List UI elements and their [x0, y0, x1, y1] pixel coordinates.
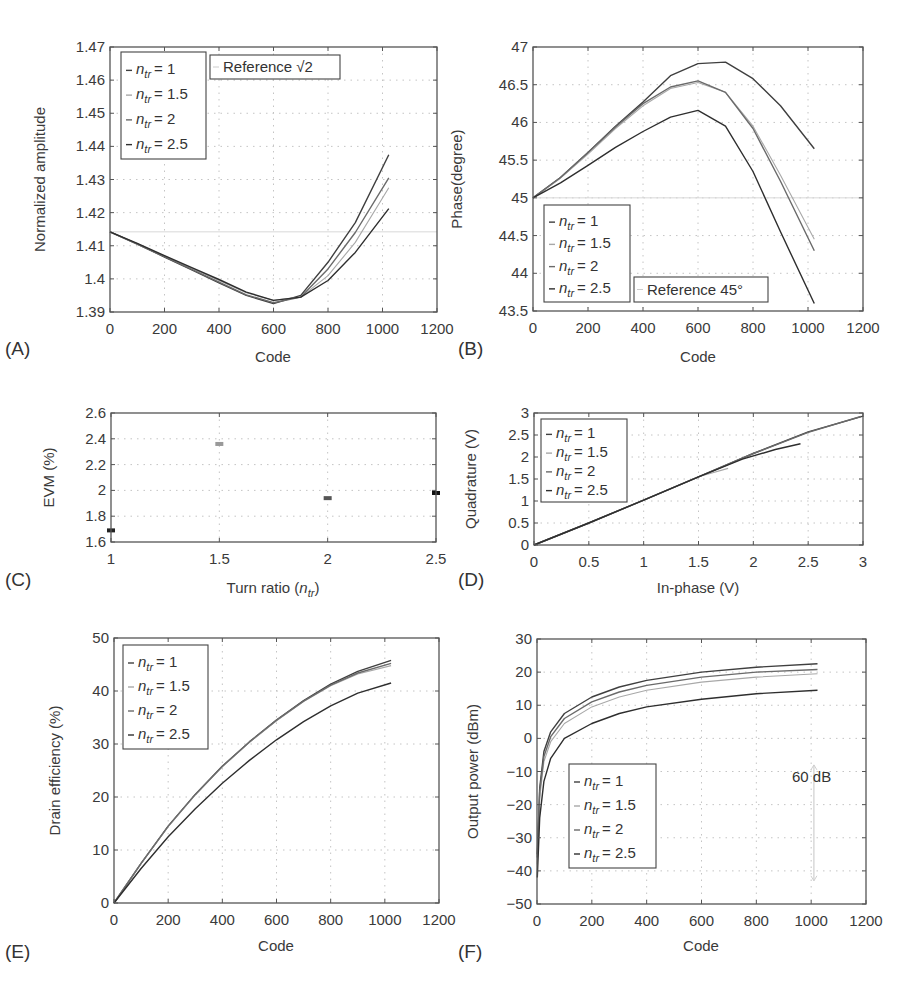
series-line: [110, 155, 389, 304]
y-tick-label: 1.46: [76, 71, 105, 88]
x-tick-label: 1: [107, 550, 115, 567]
panel-a: 0200400600800100012001.391.41.411.421.43…: [5, 38, 454, 365]
x-tick-label: 400: [630, 319, 655, 336]
x-axis-label: Code: [258, 937, 294, 954]
x-axis-label: Code: [680, 348, 716, 365]
y-tick-label: 1.44: [76, 137, 105, 154]
figure-canvas: 0200400600800100012001.391.41.411.421.43…: [0, 0, 910, 998]
x-tick-label: 1000: [366, 320, 399, 337]
y-axis-label: Quadrature (V): [462, 429, 479, 529]
y-tick-label: 1.5: [508, 470, 529, 487]
x-tick-label: 800: [318, 911, 343, 928]
legend: ntr = 1ntr = 1.5ntr = 2ntr = 2.5: [541, 419, 627, 502]
x-tick-label: 1000: [794, 912, 827, 929]
x-tick-label: 600: [689, 912, 714, 929]
x-tick-label: 400: [206, 320, 231, 337]
y-tick-label: 2: [98, 481, 106, 498]
y-tick-label: 0: [524, 729, 532, 746]
y-tick-label: 43.5: [499, 302, 528, 319]
y-tick-label: 3: [521, 404, 529, 421]
y-tick-label: −50: [507, 895, 532, 912]
y-tick-label: 10: [515, 696, 532, 713]
x-tick-label: 1: [639, 553, 647, 570]
data-point: [215, 442, 223, 446]
x-tick-label: 1200: [420, 320, 453, 337]
reference-label: Reference 45°: [647, 281, 743, 298]
y-tick-label: 45: [511, 189, 528, 206]
y-tick-label: 1.43: [76, 171, 105, 188]
x-tick-label: 1000: [368, 911, 401, 928]
legend: ntr = 1ntr = 1.5ntr = 2ntr = 2.5: [123, 645, 208, 749]
y-tick-label: 1.8: [85, 507, 106, 524]
grid-lines: [111, 413, 436, 542]
y-tick-label: 30: [92, 735, 109, 752]
series-group: [110, 155, 389, 304]
x-tick-label: 1.5: [688, 553, 709, 570]
legend: ntr = 1ntr = 1.5ntr = 2ntr = 2.5: [544, 205, 630, 302]
y-tick-label: 47: [511, 38, 528, 55]
x-tick-label: 800: [315, 320, 340, 337]
x-axis-label: Code: [683, 937, 719, 954]
panel-label: (F): [458, 941, 482, 962]
x-tick-label: 800: [740, 319, 765, 336]
y-tick-label: 44.5: [499, 227, 528, 244]
y-tick-label: 0.5: [508, 514, 529, 531]
y-tick-label: 1.41: [76, 237, 105, 254]
x-tick-label: 400: [634, 912, 659, 929]
series-line: [110, 209, 389, 301]
y-tick-label: 40: [92, 682, 109, 699]
x-tick-label: 0: [533, 912, 541, 929]
x-axis-label: In-phase (V): [657, 579, 740, 596]
x-tick-label: 1200: [846, 319, 879, 336]
panel-label: (D): [458, 569, 484, 590]
x-tick-label: 600: [685, 319, 710, 336]
y-tick-label: 20: [515, 663, 532, 680]
x-tick-label: 2: [749, 553, 757, 570]
y-tick-label: 10: [92, 841, 109, 858]
x-tick-label: 200: [579, 912, 604, 929]
y-tick-label: −40: [507, 862, 532, 879]
x-tick-label: 400: [210, 911, 235, 928]
range-annotation: 60 dB: [792, 768, 831, 785]
y-axis-label: Normalized amplitude: [31, 107, 48, 252]
x-tick-label: 0: [529, 319, 537, 336]
x-tick-label: 1.5: [209, 550, 230, 567]
legend: ntr = 1ntr = 1.5ntr = 2ntr = 2.5: [569, 764, 656, 868]
x-tick-label: 0: [110, 911, 118, 928]
panel-e: 02004006008001000120001020304050CodeDrai…: [5, 629, 456, 962]
y-tick-label: 46: [511, 113, 528, 130]
y-tick-label: 2.4: [85, 430, 106, 447]
y-tick-label: 1.42: [76, 204, 105, 221]
y-tick-label: 1.6: [85, 533, 106, 550]
x-tick-label: 0.5: [578, 553, 599, 570]
x-tick-label: 600: [261, 320, 286, 337]
y-axis-label: EVM (%): [40, 447, 57, 507]
y-tick-label: −30: [507, 829, 532, 846]
panel-label: (A): [5, 338, 30, 359]
plot-frame: [111, 413, 436, 542]
x-tick-label: 1200: [422, 911, 455, 928]
x-tick-label: 200: [575, 319, 600, 336]
x-tick-label: 0: [106, 320, 114, 337]
x-tick-label: 0: [530, 553, 538, 570]
legend: ntr = 1ntr = 1.5ntr = 2ntr = 2.5: [121, 52, 206, 159]
y-tick-label: 2: [521, 448, 529, 465]
y-tick-label: 0: [521, 536, 529, 553]
y-tick-label: 1.45: [76, 104, 105, 121]
x-axis-label: Turn ratio (ntr): [227, 579, 320, 599]
y-tick-label: −20: [507, 796, 532, 813]
x-tick-label: 200: [156, 911, 181, 928]
y-tick-label: 1: [521, 492, 529, 509]
x-tick-label: 200: [152, 320, 177, 337]
reference-label: Reference √2: [223, 58, 313, 75]
y-tick-label: 2.5: [508, 426, 529, 443]
y-tick-label: 1.39: [76, 303, 105, 320]
x-tick-label: 800: [744, 912, 769, 929]
y-axis-label: Phase(degree): [448, 129, 465, 228]
x-axis-label: Code: [255, 348, 291, 365]
y-tick-label: 50: [92, 629, 109, 646]
y-tick-label: 44: [511, 264, 528, 281]
y-tick-label: −10: [507, 763, 532, 780]
y-tick-label: 45.5: [499, 151, 528, 168]
y-tick-label: 30: [515, 630, 532, 647]
